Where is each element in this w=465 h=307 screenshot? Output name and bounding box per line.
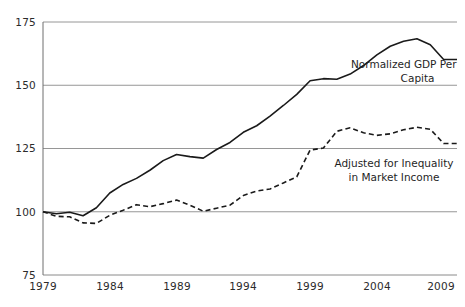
- gdp-series-annotation: Normalized GDP Per Capita: [351, 57, 457, 85]
- x-tick-label-2004: 2004: [355, 280, 399, 292]
- x-tick-label-1999: 1999: [288, 280, 332, 292]
- y-tick-label-125: 125: [2, 142, 36, 154]
- y-tick-label-100: 100: [2, 206, 36, 218]
- chart-plot-area: [0, 0, 465, 307]
- gdp-annotation-line-2: Capita: [351, 71, 457, 85]
- chart-container: 175 150 125 100 75 1979 1984 1989 1994 1…: [0, 0, 465, 307]
- x-tick-label-2009: 2009: [419, 280, 463, 292]
- y-tick-label-150: 150: [2, 79, 36, 91]
- y-tick-label-175: 175: [2, 16, 36, 28]
- inequality-annotation-line-1: Adjusted for Inequality: [330, 156, 458, 170]
- gdp-annotation-line-1: Normalized GDP Per: [351, 57, 457, 71]
- inequality-annotation-line-2: in Market Income: [330, 170, 458, 184]
- x-tick-label-1979: 1979: [21, 280, 65, 292]
- x-tick-label-1989: 1989: [155, 280, 199, 292]
- inequality-series-annotation: Adjusted for Inequality in Market Income: [330, 156, 458, 184]
- x-tick-label-1994: 1994: [221, 280, 265, 292]
- x-tick-label-1984: 1984: [88, 280, 132, 292]
